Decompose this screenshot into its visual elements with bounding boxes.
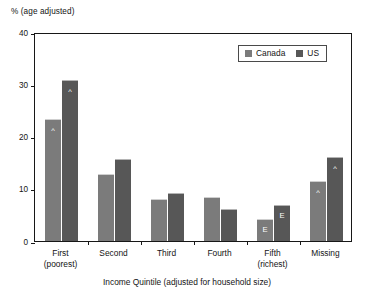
- y-tick-label: 10: [19, 185, 28, 195]
- x-tick-mark: [141, 241, 142, 245]
- bar-quality-flag: ^: [45, 127, 61, 135]
- bar-chart-figure: % (age adjusted) 010203040 ^^EE^^ First(…: [0, 0, 374, 298]
- bar-us: ^: [62, 80, 78, 241]
- x-tick-mark: [247, 241, 248, 245]
- bar-us: ^: [327, 157, 343, 241]
- x-category-label: Fifth(richest): [246, 248, 299, 269]
- bar-quality-flag: ^: [310, 189, 326, 197]
- legend-label: Canada: [256, 49, 285, 58]
- y-tick-mark: [31, 86, 35, 87]
- bar-canada: [151, 199, 167, 241]
- x-category-label: Second: [87, 248, 140, 259]
- x-category-label: Third: [140, 248, 193, 259]
- bar-quality-flag: ^: [62, 88, 78, 96]
- bar-canada: ^: [45, 119, 61, 241]
- bar-quality-flag: E: [274, 212, 290, 220]
- bar-canada: ^: [310, 181, 326, 241]
- x-category-label-line2: (richest): [246, 259, 299, 270]
- bar-us: [168, 193, 184, 241]
- bar-us: [115, 159, 131, 241]
- x-category-label-line1: Missing: [311, 248, 339, 258]
- chart-legend: CanadaUS: [238, 45, 327, 62]
- bar-canada: [204, 197, 220, 241]
- x-category-label-line2: (poorest): [34, 259, 87, 270]
- x-tick-mark: [88, 241, 89, 245]
- legend-label: US: [307, 49, 319, 58]
- bar-canada: [98, 174, 114, 241]
- y-tick-label: 30: [19, 81, 28, 91]
- y-tick-label: 0: [23, 238, 28, 248]
- legend-entry-canada: Canada: [245, 49, 285, 58]
- x-tick-mark: [300, 241, 301, 245]
- y-tick-mark: [31, 34, 35, 35]
- legend-swatch-canada: [245, 50, 252, 57]
- y-tick-mark: [31, 138, 35, 139]
- y-tick-label: 40: [19, 29, 28, 39]
- legend-swatch-us: [296, 50, 303, 57]
- y-tick-mark: [31, 190, 35, 191]
- plot-area: 010203040 ^^EE^^: [34, 33, 352, 242]
- x-category-label-line1: Fourth: [207, 248, 231, 258]
- bar-quality-flag: ^: [327, 165, 343, 173]
- x-category-label: Missing: [299, 248, 352, 259]
- x-category-label: First(poorest): [34, 248, 87, 269]
- bar-us: E: [274, 205, 290, 241]
- x-tick-mark: [194, 241, 195, 245]
- x-axis-title: Income Quintile (adjusted for household …: [0, 277, 374, 287]
- bar-us: [221, 209, 237, 241]
- y-axis-unit-label: % (age adjusted): [11, 7, 75, 16]
- x-category-label-line1: First: [52, 248, 68, 258]
- legend-entry-us: US: [296, 49, 319, 58]
- bar-canada: E: [257, 219, 273, 241]
- bar-quality-flag: E: [257, 226, 273, 234]
- x-category-label-line1: Second: [99, 248, 127, 258]
- x-category-label-line1: Third: [157, 248, 176, 258]
- y-tick-label: 20: [19, 133, 28, 143]
- y-tick-mark: [31, 243, 35, 244]
- x-category-label-line1: Fifth: [264, 248, 280, 258]
- x-category-label: Fourth: [193, 248, 246, 259]
